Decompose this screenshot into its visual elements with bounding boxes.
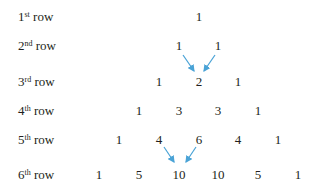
arrow-icon — [164, 147, 174, 162]
arrow-icon — [204, 55, 215, 71]
arrow-icon — [183, 55, 194, 71]
arrows-layer — [0, 0, 316, 191]
arrow-icon — [186, 147, 196, 162]
